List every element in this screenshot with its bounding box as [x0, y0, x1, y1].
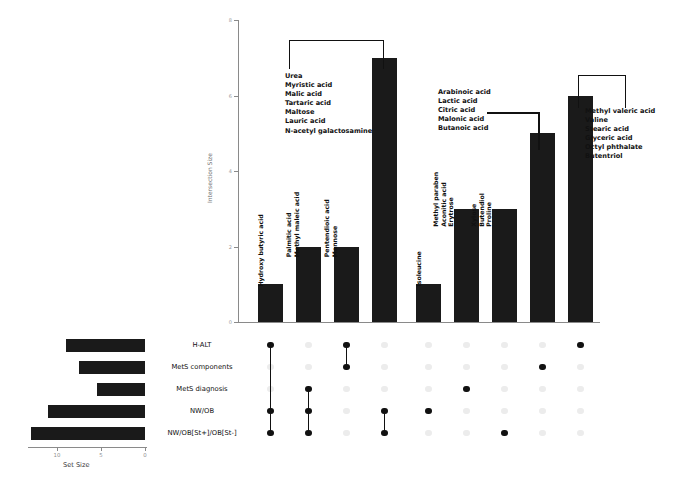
matrix-dot-empty — [305, 364, 311, 370]
intersection-axis-tick-label: 0 — [218, 319, 232, 325]
metabolite-label: Methyl maleic acid — [292, 191, 300, 256]
metabolite-label: Methyl paraben — [432, 172, 440, 227]
intersection-axis-tick — [234, 20, 238, 21]
bracket-middle-horizontal — [487, 112, 540, 114]
set-name-3: NW/OB — [152, 407, 252, 415]
rotated-labels-i6: Methyl parabenAconitic acidErytrose — [432, 172, 455, 227]
intersection-axis-tick — [234, 322, 238, 323]
metabolite-label: Urea — [285, 72, 372, 81]
matrix-dot-empty — [501, 386, 507, 392]
metabolite-label: Stearic acid — [585, 125, 655, 134]
bracket-middle-vertical — [538, 112, 540, 150]
matrix-dot-empty — [425, 364, 431, 370]
metabolite-label: Aconitic acid — [440, 172, 448, 227]
matrix-dot-filled — [305, 386, 311, 392]
set-size-axis-title: Set Size — [63, 461, 89, 469]
set-size-bar — [79, 361, 145, 374]
intersection-bar — [372, 58, 397, 322]
callout-left: UreaMyristic acidMalic acidTartaric acid… — [285, 72, 372, 136]
matrix-dot-empty — [539, 386, 545, 392]
set-size-axis-tick — [101, 447, 102, 451]
matrix-dot-filled — [267, 430, 273, 436]
matrix-dot-empty — [343, 408, 349, 414]
metabolite-label: Lauric acid — [285, 117, 372, 126]
intersection-axis-tick — [234, 171, 238, 172]
set-name-0: H-ALT — [152, 341, 252, 349]
matrix-dot-empty — [425, 386, 431, 392]
rotated-labels-i5: Isoleucine — [415, 251, 423, 286]
matrix-dot-empty — [463, 430, 469, 436]
set-size-bar — [97, 383, 145, 396]
matrix-dot-empty — [463, 342, 469, 348]
set-size-axis-tick — [57, 447, 58, 451]
matrix-dot-empty — [501, 364, 507, 370]
metabolite-label: Malonic acid — [438, 115, 491, 124]
matrix-dot-empty — [539, 408, 545, 414]
metabolite-label: Lactic acid — [438, 97, 491, 106]
set-name-2: MetS diagnosis — [152, 385, 252, 393]
bracket-left — [289, 40, 384, 69]
matrix-dot-empty — [577, 408, 583, 414]
matrix-dot-empty — [577, 386, 583, 392]
metabolite-label: Proline — [485, 193, 493, 227]
set-size-bar — [48, 405, 145, 418]
matrix-dot-empty — [501, 342, 507, 348]
matrix-dot-filled — [305, 430, 311, 436]
metabolite-label: Xylose — [470, 193, 478, 227]
matrix-dot-empty — [463, 408, 469, 414]
metabolite-label: Isoleucine — [415, 251, 423, 286]
intersection-bar — [334, 247, 359, 323]
metabolite-label: Maltose — [285, 108, 372, 117]
intersection-bar — [296, 247, 321, 323]
matrix-dot-filled — [501, 430, 507, 436]
metabolite-label: Butentriol — [585, 152, 655, 161]
matrix-dot-empty — [463, 364, 469, 370]
matrix-dot-empty — [381, 364, 387, 370]
intersection-bar — [416, 284, 441, 322]
set-size-axis-line — [28, 447, 147, 448]
metabolite-label: Erytrose — [447, 172, 455, 227]
rotated-labels-i7: XyloseButendiolProline — [470, 193, 493, 227]
upset-plot-figure: 02468Intersection SizeHydroxy butyric ac… — [0, 0, 675, 483]
rotated-labels-i2: Palmitic acidMethyl maleic acid — [285, 191, 300, 256]
intersection-baseline — [238, 322, 600, 323]
intersection-axis-tick-label: 4 — [218, 168, 232, 174]
matrix-dot-empty — [539, 430, 545, 436]
matrix-dot-empty — [425, 430, 431, 436]
set-name-4: NW/OB[St+]/OB[St-] — [152, 429, 252, 437]
metabolite-label: Octyl phthalate — [585, 143, 655, 152]
bracket-right — [578, 75, 626, 108]
metabolite-label: Malic acid — [285, 90, 372, 99]
metabolite-label: Methyl valeric acid — [585, 107, 655, 116]
matrix-dot-filled — [343, 364, 349, 370]
intersection-axis-line — [238, 20, 239, 322]
set-size-axis-tick — [145, 447, 146, 451]
intersection-bar — [492, 209, 517, 322]
matrix-dot-empty — [425, 342, 431, 348]
metabolite-label: Tartaric acid — [285, 99, 372, 108]
matrix-dot-empty — [577, 430, 583, 436]
set-size-axis-tick-label: 5 — [91, 452, 111, 458]
callout-right: Methyl valeric acidValineStearic acidGly… — [585, 107, 655, 162]
set-size-bar — [31, 427, 145, 440]
matrix-dot-empty — [381, 386, 387, 392]
metabolite-label: Myristic acid — [285, 81, 372, 90]
metabolite-label: Pentendioic acid — [323, 199, 331, 257]
intersection-axis-tick-label: 8 — [218, 17, 232, 23]
intersection-axis-tick — [234, 247, 238, 248]
matrix-dot-filled — [577, 342, 583, 348]
matrix-dot-filled — [463, 386, 469, 392]
metabolite-label: Valine — [585, 116, 655, 125]
matrix-dot-filled — [267, 342, 273, 348]
intersection-axis-title: Intersection Size — [206, 153, 213, 203]
matrix-dot-empty — [539, 342, 545, 348]
matrix-dot-filled — [267, 408, 273, 414]
matrix-dot-filled — [381, 408, 387, 414]
metabolite-label: Hydroxy butyric acid — [257, 215, 265, 287]
metabolite-label: Palmitic acid — [285, 191, 293, 256]
matrix-dot-filled — [425, 408, 431, 414]
matrix-dot-empty — [343, 430, 349, 436]
matrix-dot-filled — [343, 342, 349, 348]
metabolite-label: N-acetyl galactosamine — [285, 127, 372, 136]
matrix-dot-empty — [343, 386, 349, 392]
